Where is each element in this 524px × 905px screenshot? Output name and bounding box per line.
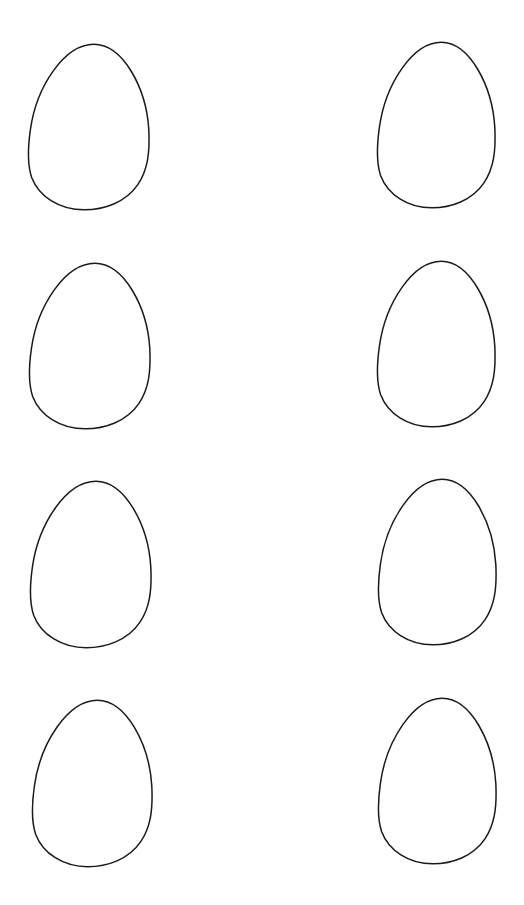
egg-outline: [29, 262, 151, 430]
egg-outline: [378, 478, 497, 646]
egg-shape-icon: [30, 480, 152, 649]
egg-outline: [377, 41, 496, 209]
egg-shape-icon: [378, 478, 497, 646]
egg-outline: [32, 699, 153, 868]
egg-shape-icon: [29, 262, 151, 430]
egg-shape-icon: [377, 260, 496, 428]
egg-outline: [378, 697, 497, 865]
egg-outline: [377, 260, 496, 428]
egg-shape-icon: [377, 41, 496, 209]
egg-shape-icon: [378, 697, 497, 865]
egg-shape-icon: [32, 699, 153, 868]
egg-outline: [30, 480, 152, 649]
egg-shape-icon: [28, 43, 150, 211]
egg-outline: [28, 43, 150, 211]
